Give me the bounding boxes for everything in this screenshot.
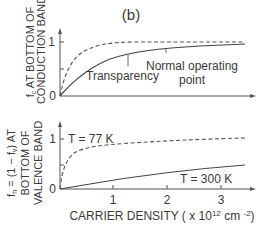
label-300k: T = 300 K — [180, 172, 232, 186]
lower-ytick-0: 0 — [49, 182, 56, 196]
lower-ytick-1: 1 — [49, 132, 56, 146]
normal-operating-label-line2: point — [179, 73, 206, 87]
upper-ytick-1: 1 — [48, 35, 55, 49]
lower-ylabel-line3: VALENCE BAND — [32, 121, 44, 205]
lower-ylabel-line2: BOTTOM OF — [19, 130, 31, 195]
upper-ytick-0: 0 — [49, 89, 56, 103]
lower-x-arrow-icon — [250, 187, 256, 191]
upper-ylabel-line2: CONDUCTION BAND — [35, 0, 47, 104]
label-77k: T = 77 K — [68, 132, 113, 146]
normal-operating-label-line1: Normal operating — [146, 59, 238, 73]
xtick-2: 2 — [164, 193, 171, 207]
panel-label: (b) — [122, 6, 140, 23]
upper-x-arrow-icon — [250, 94, 256, 98]
x-axis-label: CARRIER DENSITY ( x 1012 cm -2) — [69, 209, 254, 223]
lower-ylabel-line1: fh = (1 − fv) AT — [5, 129, 18, 197]
lower-plot: fh = (1 − fv) AT BOTTOM OF VALENCE BAND … — [5, 121, 256, 223]
upper-y-arrow-icon — [58, 28, 62, 34]
lower-y-arrow-icon — [58, 121, 62, 127]
xtick-1: 1 — [110, 193, 117, 207]
figure: (b) fc AT BOTTOM OF CONDUCTION BAND 1 0 … — [0, 0, 267, 231]
xtick-3: 3 — [218, 193, 225, 207]
